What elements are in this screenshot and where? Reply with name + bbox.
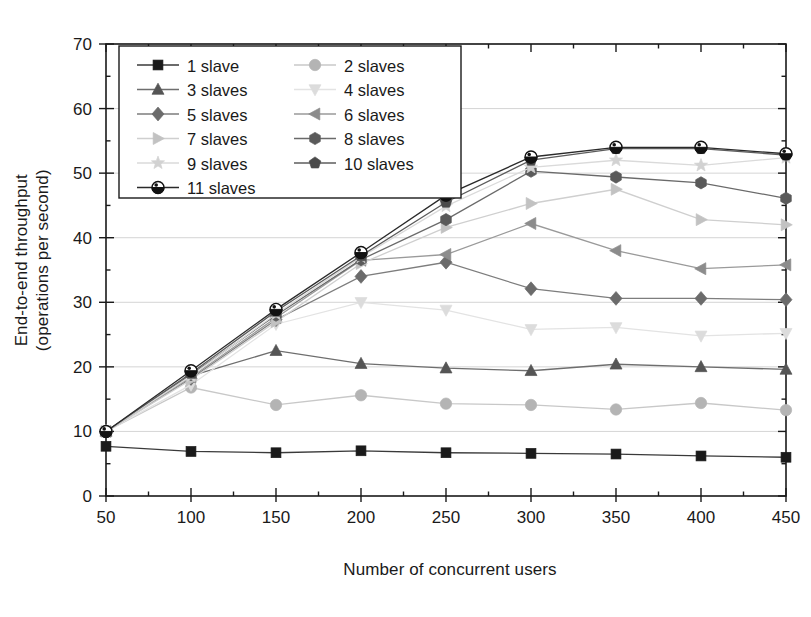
y-tick-label: 50	[73, 164, 92, 183]
data-point-marker	[355, 247, 367, 259]
data-point-marker	[356, 446, 366, 456]
data-point-marker	[610, 404, 621, 415]
data-point-marker	[526, 448, 536, 458]
y-tick-label: 40	[73, 229, 92, 248]
data-point-marker	[525, 282, 537, 296]
data-point-marker	[441, 448, 451, 458]
x-tick-label: 200	[347, 508, 375, 527]
legend-marker-icon	[309, 59, 320, 70]
data-point-marker	[525, 151, 537, 163]
y-tick-label: 60	[73, 100, 92, 119]
y-tick-label: 70	[73, 35, 92, 54]
legend-marker-icon	[310, 132, 321, 144]
data-point-marker	[695, 397, 706, 408]
data-point-marker	[780, 293, 792, 307]
series-5-slaves	[100, 255, 792, 438]
data-point-marker	[270, 303, 282, 315]
legend-label: 5 slaves	[187, 106, 248, 124]
data-point-marker	[101, 441, 111, 451]
x-tick-label: 100	[177, 508, 205, 527]
data-point-marker	[611, 449, 621, 459]
data-point-marker	[610, 141, 622, 153]
series-2-slaves	[100, 382, 791, 437]
data-point-marker	[610, 358, 622, 369]
chart-figure: End-to-end throughput (operations per se…	[0, 0, 811, 617]
y-tick-label: 10	[73, 422, 92, 441]
legend-label: 2 slaves	[344, 57, 405, 75]
chart-canvas: 5010015020025030035040045001020304050607…	[0, 0, 811, 617]
legend-label: 4 slaves	[344, 81, 405, 99]
y-axis-label-line2: (operations per second)	[32, 169, 53, 351]
data-point-marker	[525, 399, 536, 410]
data-point-marker	[270, 399, 281, 410]
x-tick-label: 400	[687, 508, 715, 527]
data-point-marker	[695, 331, 707, 342]
x-tick-label: 300	[517, 508, 545, 527]
data-point-marker	[780, 148, 792, 160]
data-point-marker	[610, 292, 622, 306]
data-point-marker	[781, 192, 792, 204]
x-tick-label: 50	[97, 508, 116, 527]
data-point-marker	[609, 153, 622, 165]
data-point-marker	[526, 197, 537, 209]
legend-label: 9 slaves	[187, 155, 248, 173]
y-tick-label: 30	[73, 293, 92, 312]
data-point-marker	[100, 425, 112, 437]
x-tick-label: 450	[772, 508, 800, 527]
data-point-marker	[610, 245, 621, 257]
legend-label: 8 slaves	[344, 130, 405, 148]
data-point-marker	[441, 214, 452, 226]
data-point-marker	[696, 451, 706, 461]
y-axis-label: End-to-end throughput (operations per se…	[4, 0, 60, 520]
data-point-marker	[611, 171, 622, 183]
legend-label: 11 slaves	[187, 179, 255, 197]
data-point-marker	[355, 270, 367, 284]
x-tick-label: 250	[432, 508, 460, 527]
data-point-marker	[695, 263, 706, 275]
legend-label: 1 slave	[187, 57, 239, 75]
y-axis-label-line1: End-to-end throughput	[11, 169, 32, 351]
x-axis-label: Number of concurrent users	[90, 560, 810, 580]
legend-marker-icon	[153, 60, 163, 70]
data-point-marker	[695, 292, 707, 306]
legend-label: 6 slaves	[344, 106, 405, 124]
x-tick-label: 150	[262, 508, 290, 527]
data-point-marker	[440, 398, 451, 409]
series-line	[106, 171, 786, 431]
legend-label: 7 slaves	[187, 130, 248, 148]
data-point-marker	[271, 448, 281, 458]
chart-legend: 1 slave2 slaves3 slaves4 slaves5 slaves6…	[119, 46, 461, 198]
data-point-marker	[525, 218, 536, 230]
data-point-marker	[186, 447, 196, 457]
data-point-marker	[695, 141, 707, 153]
data-point-marker	[781, 452, 791, 462]
series-1-slave	[101, 441, 791, 462]
x-tick-label: 350	[602, 508, 630, 527]
data-point-marker	[185, 365, 197, 377]
data-point-marker	[694, 158, 707, 170]
data-point-marker	[611, 183, 622, 195]
y-tick-label: 0	[83, 487, 92, 506]
data-point-marker	[696, 214, 707, 226]
y-tick-label: 20	[73, 358, 92, 377]
legend-box	[119, 46, 461, 198]
data-point-marker	[696, 177, 707, 189]
data-point-marker	[780, 404, 791, 415]
legend-label: 10 slaves	[344, 155, 414, 173]
legend-label: 3 slaves	[187, 81, 248, 99]
data-point-marker	[355, 390, 366, 401]
data-point-marker	[525, 325, 537, 336]
data-point-marker	[270, 344, 282, 355]
legend-marker-icon	[152, 182, 164, 194]
